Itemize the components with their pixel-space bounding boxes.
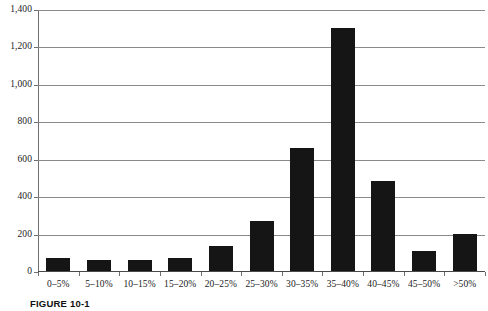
- x-axis-tick-label: 35–40%: [322, 272, 363, 289]
- x-axis-tick-mark: [282, 272, 283, 276]
- y-axis-tick-label: 1,400: [0, 5, 32, 15]
- bar: [453, 234, 477, 271]
- x-axis-tick-mark: [485, 272, 486, 276]
- y-axis-tick-label: 1,200: [0, 42, 32, 52]
- bar: [128, 260, 152, 271]
- bar: [168, 258, 192, 271]
- bar-slot: [79, 9, 120, 271]
- bar: [250, 221, 274, 271]
- x-axis-tick-label: 20–25%: [201, 272, 242, 289]
- x-axis-tick-label: 25–30%: [241, 272, 282, 289]
- x-axis-tick-label: 5–10%: [79, 272, 120, 289]
- figure-container: 1,4001,2001,0008006004002000 0–5%5–10%10…: [0, 0, 488, 311]
- x-axis: 0–5%5–10%10–15%15–20%20–25%25–30%30–35%3…: [38, 272, 485, 292]
- bar-slot: [444, 9, 485, 271]
- x-axis-tick-mark: [79, 272, 80, 276]
- y-axis-tick-label: 400: [0, 192, 32, 202]
- x-axis-tick-mark: [404, 272, 405, 276]
- x-axis-tick-label: 45–50%: [404, 272, 445, 289]
- bar: [412, 251, 436, 271]
- bar-series: [38, 9, 485, 271]
- x-axis-tick-label: 0–5%: [38, 272, 79, 289]
- bar: [87, 260, 111, 271]
- bar: [209, 246, 233, 271]
- bar-slot: [322, 9, 363, 271]
- figure-number: FIGURE 10-1: [30, 298, 90, 309]
- bar-slot: [404, 9, 445, 271]
- x-axis-tick-mark: [201, 272, 202, 276]
- x-axis-tick-mark: [241, 272, 242, 276]
- y-axis-tick-label: 600: [0, 155, 32, 165]
- bar-slot: [160, 9, 201, 271]
- x-axis-tick-mark: [160, 272, 161, 276]
- x-axis-tick-label: 30–35%: [282, 272, 323, 289]
- bar-slot: [119, 9, 160, 271]
- x-axis-tick-mark: [119, 272, 120, 276]
- x-axis-tick-label: 10–15%: [119, 272, 160, 289]
- bar: [290, 148, 314, 271]
- x-axis-tick-mark: [38, 272, 39, 276]
- y-axis-tick-label: 1,000: [0, 80, 32, 90]
- x-axis-tick-mark: [322, 272, 323, 276]
- bar: [371, 181, 395, 271]
- x-axis-tick-mark: [363, 272, 364, 276]
- x-axis-tick-label: >50%: [444, 272, 485, 289]
- bar-slot: [241, 9, 282, 271]
- bar-slot: [363, 9, 404, 271]
- bar-slot: [282, 9, 323, 271]
- x-axis-labels: 0–5%5–10%10–15%15–20%20–25%25–30%30–35%3…: [38, 272, 485, 289]
- chart-plot-area: 1,4001,2001,0008006004002000: [38, 10, 485, 272]
- bar-slot: [38, 9, 79, 271]
- bar: [46, 258, 70, 271]
- x-axis-tick-mark: [444, 272, 445, 276]
- x-axis-tick-label: 15–20%: [160, 272, 201, 289]
- bar-slot: [201, 9, 242, 271]
- bar: [331, 28, 355, 271]
- x-axis-tick-label: 40–45%: [363, 272, 404, 289]
- y-axis-tick-label: 200: [0, 230, 32, 240]
- y-axis-tick-label: 0: [0, 267, 32, 277]
- figure-caption: FIGURE 10-1: [30, 297, 488, 311]
- y-axis-tick-label: 800: [0, 117, 32, 127]
